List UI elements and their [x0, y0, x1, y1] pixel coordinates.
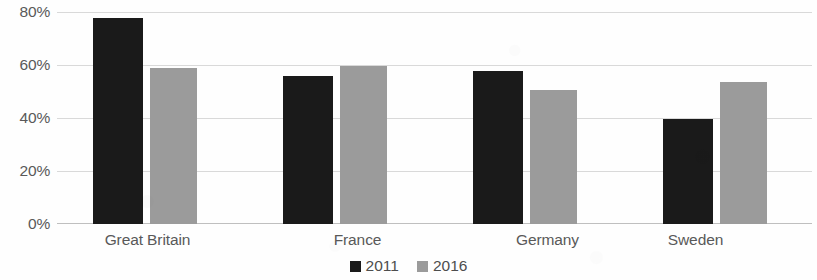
bar-chart: 80% 60% 40% 20% 0% Great Britain France … [0, 0, 817, 280]
chart-legend: 2011 2016 [0, 258, 817, 274]
x-category-label-france: France [295, 231, 420, 249]
y-tick-label-0: 0% [2, 216, 50, 232]
plot-area [57, 12, 812, 224]
legend-label-2016: 2016 [433, 258, 467, 274]
y-tick-label-20: 20% [2, 163, 50, 179]
y-tick-label-40: 40% [2, 110, 50, 126]
y-axis: 80% 60% 40% 20% 0% [0, 0, 50, 280]
bar-germany-2016 [530, 90, 577, 225]
y-tick-label-60: 60% [2, 57, 50, 73]
bar-france-2016 [340, 66, 387, 224]
gridline-60 [57, 65, 812, 66]
y-tick-label-80: 80% [2, 4, 50, 20]
bar-great-britain-2011 [93, 18, 143, 224]
bar-sweden-2011 [663, 119, 713, 225]
legend-item-2011[interactable]: 2011 [350, 258, 399, 274]
x-category-label-germany: Germany [485, 231, 610, 249]
black-square-icon [350, 261, 361, 272]
legend-item-2016[interactable]: 2016 [417, 258, 467, 274]
gray-square-icon [417, 261, 428, 272]
legend-label-2011: 2011 [366, 258, 399, 274]
bar-great-britain-2016 [150, 68, 197, 224]
bar-france-2011 [283, 76, 333, 224]
bar-sweden-2016 [720, 82, 767, 224]
x-category-label-great-britain: Great Britain [85, 231, 210, 249]
bar-germany-2011 [473, 71, 523, 224]
x-category-label-sweden: Sweden [633, 231, 758, 249]
gridline-80 [57, 12, 812, 13]
